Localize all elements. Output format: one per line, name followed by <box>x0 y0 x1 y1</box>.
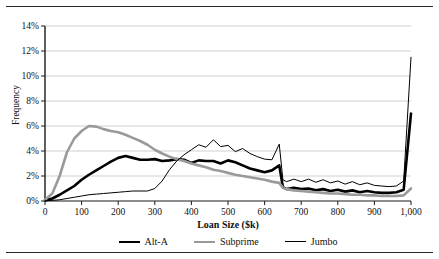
x-tick-label-0: 0 <box>25 207 65 217</box>
data-series-group <box>45 57 411 201</box>
y-tick-label-2: 2% <box>9 171 39 181</box>
x-axis-title: Loan Size ($k) <box>45 219 411 230</box>
x-tick-label-200: 200 <box>98 207 138 217</box>
y-tick-label-0: 0% <box>9 196 39 206</box>
x-tick-label-500: 500 <box>208 207 248 217</box>
y-tick-label-14: 14% <box>9 21 39 31</box>
figure-container: 0%2%4%6%8%10%12%14% 01002003004005006007… <box>0 0 439 259</box>
legend-item-alt-a[interactable]: Alt-A <box>119 236 168 247</box>
x-tick-marks <box>45 201 411 205</box>
legend-label: Alt-A <box>145 236 168 247</box>
legend-label: Subprime <box>220 236 259 247</box>
y-tick-label-12: 12% <box>9 46 39 56</box>
y-tick-label-4: 4% <box>9 146 39 156</box>
x-tick-label-800: 800 <box>318 207 358 217</box>
legend-item-jumbo[interactable]: Jumbo <box>285 236 338 247</box>
x-tick-label-600: 600 <box>245 207 285 217</box>
chart-legend: Alt-ASubprimeJumbo <box>45 236 411 247</box>
legend-label: Jumbo <box>311 236 338 247</box>
x-tick-label-300: 300 <box>135 207 175 217</box>
gridlines <box>45 26 411 176</box>
x-tick-label-400: 400 <box>171 207 211 217</box>
x-tick-label-100: 100 <box>62 207 102 217</box>
legend-line-swatch-icon <box>194 241 215 243</box>
legend-line-swatch-icon <box>119 241 140 243</box>
x-tick-label-700: 700 <box>281 207 321 217</box>
x-tick-label-900: 900 <box>354 207 394 217</box>
legend-item-subprime[interactable]: Subprime <box>194 236 259 247</box>
x-tick-label-1000: 1,000 <box>391 207 431 217</box>
y-axis-title: Frequency <box>11 65 21 145</box>
axis-lines <box>45 26 411 201</box>
series-line-subprime <box>45 126 411 200</box>
legend-line-swatch-icon <box>285 241 306 242</box>
